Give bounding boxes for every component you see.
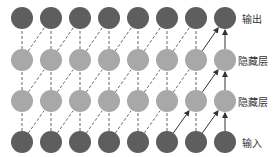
connection-line [144, 28, 160, 51]
hidden-2-node [40, 49, 62, 71]
output-node [214, 7, 236, 29]
connection-line [28, 70, 44, 92]
hidden-2-node [214, 49, 236, 71]
input-node [127, 131, 149, 153]
output-node [185, 7, 207, 29]
connection-line [115, 111, 131, 133]
hidden-2-node [156, 49, 178, 71]
hidden-1-node [127, 90, 149, 112]
input-layer-label: 输入 [242, 135, 262, 150]
hidden-1-node [214, 90, 236, 112]
output-node [40, 7, 62, 29]
connection-line [86, 70, 102, 92]
output-node [156, 7, 178, 29]
hidden-1-node [11, 90, 33, 112]
connection-line [28, 28, 44, 51]
active-connection-arrow [202, 70, 218, 92]
hidden-2-node [11, 49, 33, 71]
connection-line [144, 111, 160, 133]
connection-line [173, 28, 189, 51]
connection-line [57, 111, 73, 133]
active-connection-arrow [173, 111, 189, 133]
input-node [40, 131, 62, 153]
connection-line [144, 70, 160, 92]
connection-line [86, 111, 102, 133]
input-node [69, 131, 91, 153]
connection-line [57, 28, 73, 51]
active-connection-arrow [202, 28, 218, 51]
connection-line [115, 70, 131, 92]
connection-line [115, 28, 131, 51]
connection-line [57, 70, 73, 92]
input-node [214, 131, 236, 153]
hidden-layer-1-label: 隐藏层 [238, 94, 268, 109]
input-node [156, 131, 178, 153]
output-node [127, 7, 149, 29]
hidden-2-node [98, 49, 120, 71]
dilated-network-diagram [0, 0, 276, 157]
hidden-1-node [69, 90, 91, 112]
connection-line [173, 70, 189, 92]
input-node [98, 131, 120, 153]
hidden-2-node [69, 49, 91, 71]
connection-line [86, 28, 102, 51]
output-node [11, 7, 33, 29]
output-node [69, 7, 91, 29]
connection-line [28, 111, 44, 133]
output-node [98, 7, 120, 29]
hidden-layer-2-label: 隐藏层 [238, 53, 268, 68]
hidden-1-node [156, 90, 178, 112]
hidden-1-node [40, 90, 62, 112]
input-node [185, 131, 207, 153]
input-node [11, 131, 33, 153]
hidden-2-node [185, 49, 207, 71]
active-connection-arrow [202, 111, 218, 133]
output-layer-label: 输出 [242, 11, 262, 26]
hidden-2-node [127, 49, 149, 71]
hidden-1-node [185, 90, 207, 112]
hidden-1-node [98, 90, 120, 112]
